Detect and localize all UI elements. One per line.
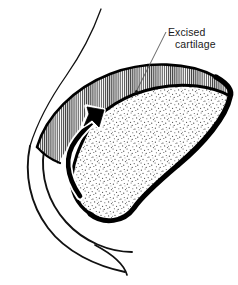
medical-illustration-figure: Excised cartilage	[0, 0, 238, 285]
excised-cartilage-label-line1: Excised	[168, 26, 205, 39]
leader-endpoint-dot	[135, 90, 138, 93]
excised-cartilage-label-line2: cartilage	[175, 38, 216, 51]
